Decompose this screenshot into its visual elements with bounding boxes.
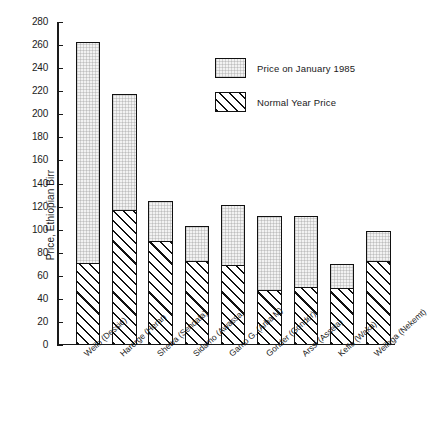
bar-segment-price-january-1985 (112, 94, 137, 212)
y-tick-label: 100 (32, 225, 48, 235)
bar-segment-price-january-1985 (148, 201, 173, 243)
y-tick-label: 180 (32, 132, 48, 142)
legend-item-price-january-1985: Price on January 1985 (215, 55, 355, 81)
bar-segment-price-january-1985 (330, 264, 355, 290)
y-tick-label: 220 (32, 86, 48, 96)
y-tick-label: 200 (32, 109, 48, 119)
stipple-swatch-icon (215, 58, 246, 78)
y-tick-label: 160 (32, 155, 48, 165)
legend-item-normal-year-price: Normal Year Price (215, 89, 355, 115)
bar-segment-price-january-1985 (294, 216, 319, 289)
bar-segment-price-january-1985 (221, 205, 246, 266)
bar-segment-price-january-1985 (185, 226, 210, 262)
bar-segment-price-january-1985 (76, 42, 101, 265)
bar-segment-normal-year-price (76, 263, 101, 345)
bar-segment-price-january-1985 (257, 216, 282, 291)
y-tick-label: 240 (32, 63, 48, 73)
y-tick (57, 345, 63, 346)
bar-1 (76, 42, 101, 345)
legend-label: Normal Year Price (257, 97, 336, 108)
y-tick-label: 120 (32, 202, 48, 212)
y-tick-label: 280 (32, 17, 48, 27)
bar-2 (112, 94, 137, 345)
hatch-swatch-icon (215, 92, 246, 112)
y-tick-label: 60 (37, 271, 48, 281)
y-tick-label: 140 (32, 179, 48, 189)
y-tick-label: 20 (37, 317, 48, 327)
y-tick-label: 0 (43, 340, 48, 350)
chart-legend: Price on January 1985 Normal Year Price (215, 55, 355, 123)
bar-segment-price-january-1985 (366, 231, 391, 262)
y-tick-label: 260 (32, 40, 48, 50)
y-tick-label: 80 (37, 248, 48, 258)
y-tick-label: 40 (37, 294, 48, 304)
legend-label: Price on January 1985 (257, 63, 355, 74)
